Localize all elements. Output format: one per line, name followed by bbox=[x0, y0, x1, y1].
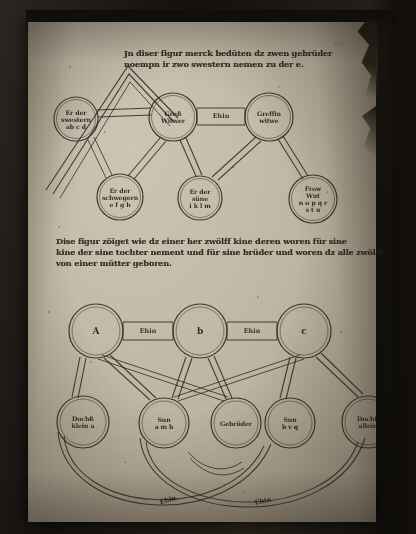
node-line: süne bbox=[189, 195, 210, 202]
node-label-dochs-allein: Dochß allein bbox=[357, 415, 379, 429]
node-label-c: c bbox=[301, 326, 306, 336]
node-label-frow-wut: Frow Wut n o p q r s t u bbox=[299, 185, 327, 213]
diagram-two-heading-line-3: von einer mütter geboren. bbox=[56, 258, 382, 269]
node-line: klein a bbox=[72, 422, 95, 429]
node-line: Er der bbox=[102, 187, 138, 194]
band-label-ehin-3: Ehin bbox=[244, 327, 261, 335]
node-line: Dochß bbox=[72, 415, 95, 422]
diagram-one-heading: Jn diser figur merck bedüten dz zwen geb… bbox=[124, 48, 332, 70]
node-label-gross-witwer: Groß Witwer bbox=[161, 110, 185, 124]
node-label-schwegern: Er der schwegern e f g h bbox=[102, 187, 138, 208]
diagram-one-heading-line-2: noempn ir zwo swestern nemen zu der e. bbox=[124, 59, 332, 70]
node-line: c bbox=[301, 326, 306, 336]
node-line: n o p q r bbox=[299, 199, 327, 206]
node-line: witwe bbox=[257, 117, 281, 124]
band-label-ehin-1: Ehin bbox=[213, 112, 230, 120]
ink-drawing: .ln { fill:none; stroke:#2a2117; stroke-… bbox=[28, 22, 376, 522]
node-label-dochs-klein-a: Dochß klein a bbox=[72, 415, 95, 429]
node-label-gebruder: Gebrüder bbox=[220, 420, 252, 427]
node-line: Sun bbox=[155, 416, 174, 423]
node-label-a: A bbox=[93, 326, 100, 336]
diagram-one-heading-line-1: Jn diser figur merck bedüten dz zwen geb… bbox=[124, 48, 332, 59]
node-line: Groß bbox=[161, 110, 185, 117]
node-line: i k l m bbox=[189, 202, 210, 209]
node-line: ab c d bbox=[61, 123, 91, 130]
folio-number: f.16 bbox=[334, 40, 344, 46]
node-label-sune: Er der süne i k l m bbox=[189, 188, 210, 209]
node-line: Frow bbox=[299, 185, 327, 192]
node-line: e f g h bbox=[102, 201, 138, 208]
node-line: Er der bbox=[61, 109, 91, 116]
vellum-leaf: .ln { fill:none; stroke:#2a2117; stroke-… bbox=[28, 22, 376, 522]
node-label-b: b bbox=[197, 326, 203, 336]
node-line: b bbox=[197, 326, 203, 336]
manuscript-page: .ln { fill:none; stroke:#2a2117; stroke-… bbox=[0, 0, 416, 534]
node-line: Er der bbox=[189, 188, 210, 195]
node-line: schwegern bbox=[102, 194, 138, 201]
diagram-two-heading-line-1: Dise figur zöiget wie dz einer her zwölf… bbox=[56, 236, 382, 247]
node-line: Dochß bbox=[357, 415, 379, 422]
node-line: Greffin bbox=[257, 110, 281, 117]
band-label-ehin-2: Ehin bbox=[140, 327, 157, 335]
node-label-sun-amb: Sun a m b bbox=[155, 416, 174, 430]
diagram-two-heading: Dise figur zöiget wie dz einer her zwölf… bbox=[56, 236, 382, 269]
node-label-sun-bvq: Sun b v q bbox=[282, 416, 298, 430]
node-line: Wut bbox=[299, 192, 327, 199]
node-line: Gebrüder bbox=[220, 420, 252, 427]
node-line: s t u bbox=[299, 206, 327, 213]
node-label-swestern: Er der swestern ab c d bbox=[61, 109, 91, 130]
node-line: Witwer bbox=[161, 117, 185, 124]
node-line: Sun bbox=[282, 416, 298, 423]
node-line: allein bbox=[357, 422, 379, 429]
node-line: a m b bbox=[155, 423, 174, 430]
node-line: b v q bbox=[282, 423, 298, 430]
node-line: swestern bbox=[61, 116, 91, 123]
node-line: A bbox=[93, 326, 100, 336]
diagram-two-heading-line-2: kine der sine tochter nement und für sin… bbox=[56, 247, 382, 258]
node-label-greffin-witwe: Greffin witwe bbox=[257, 110, 281, 124]
